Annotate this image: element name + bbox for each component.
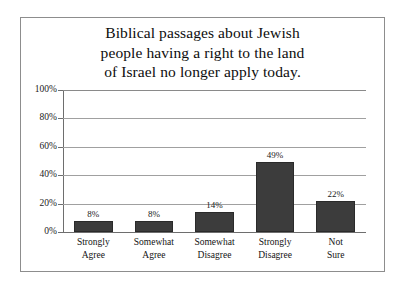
y-tick-60 [58,147,63,148]
bar-value-label: 14% [184,201,245,210]
y-tick-40 [58,175,63,176]
y-tick-100 [58,90,63,91]
gridline-0 [63,232,366,233]
bar-value-label: 49% [245,151,306,160]
y-tick-80 [58,118,63,119]
bar-slot: 49% [245,90,306,232]
bar-slot: 22% [305,90,366,232]
bar-slot: 8% [124,90,185,232]
bar-value-label: 8% [63,210,124,219]
y-tick-0 [58,232,63,233]
bar[interactable] [256,162,295,232]
bar-value-label: 8% [124,210,185,219]
bar[interactable] [135,221,174,232]
bar-slot: 8% [63,90,124,232]
x-axis-label-not-sure: NotSure [305,236,366,261]
chart-title-line-2: people having a right to the land [21,43,384,63]
chart-title: Biblical passages about Jewish people ha… [21,23,384,82]
bar[interactable] [316,201,355,232]
y-axis-label-100: 100% [23,85,57,95]
y-axis-labels: 0%20%40%60%80%100% [21,18,57,271]
chart-frame: Biblical passages about Jewish people ha… [20,17,385,272]
y-axis-label-60: 60% [23,142,57,152]
plot-area: 8%8%14%49%22% [63,90,366,232]
y-axis-label-20: 20% [23,199,57,209]
x-axis-category-labels: StronglyAgreeSomewhatAgreeSomewhatDisagr… [63,236,366,270]
chart-title-line-1: Biblical passages about Jewish [21,23,384,43]
y-axis-label-80: 80% [23,113,57,123]
x-axis-label-strongly-agree: StronglyAgree [63,236,124,261]
bar-value-label: 22% [305,190,366,199]
chart-page: Biblical passages about Jewish people ha… [0,0,401,290]
chart-title-line-3: of Israel no longer apply today. [21,62,384,82]
x-axis-label-somewhat-disagree: SomewhatDisagree [184,236,245,261]
bar[interactable] [195,212,234,232]
y-tick-20 [58,204,63,205]
x-axis-label-somewhat-agree: SomewhatAgree [124,236,185,261]
y-axis-label-40: 40% [23,170,57,180]
y-axis-label-0: 0% [23,227,57,237]
x-axis-label-strongly-disagree: StronglyDisagree [245,236,306,261]
bar-slot: 14% [184,90,245,232]
bar[interactable] [74,221,113,232]
